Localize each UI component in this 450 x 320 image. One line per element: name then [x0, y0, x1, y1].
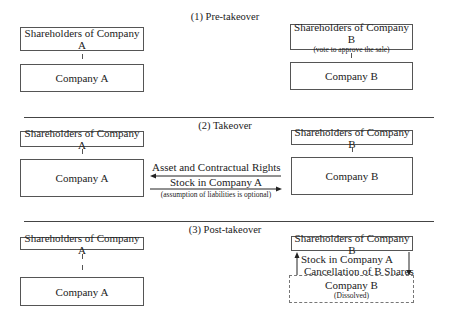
company-b-label: Company B [325, 279, 378, 291]
company-b-box-2: Company B [291, 157, 413, 195]
shareholders-a-box-3: Shareholders of Company A [20, 237, 144, 250]
company-a-label: Company A [56, 286, 109, 298]
section-divider-2 [24, 221, 434, 222]
liabilities-note: (assumption of liabilities is optional) [152, 190, 280, 199]
shareholders-b-label: Shareholders of Company B [292, 232, 412, 256]
shareholders-a-label: Shareholders of Company A [21, 127, 143, 151]
connector-b-1 [351, 53, 352, 58]
shareholders-a-box-2: Shareholders of Company A [20, 131, 144, 147]
company-b-box-1: Company B [290, 62, 413, 90]
connector-a-3a [82, 254, 83, 259]
shareholders-a-label: Shareholders of Company A [21, 232, 143, 256]
company-b-label: Company B [325, 70, 378, 82]
shareholders-b-box-3: Shareholders of Company B [291, 236, 413, 251]
shareholders-b-box-1: Shareholders of Company B (vote to appro… [290, 24, 413, 50]
asset-rights-label: Asset and Contractual Rights [152, 161, 280, 173]
company-a-label: Company A [56, 72, 109, 84]
company-a-box-1: Company A [20, 64, 144, 92]
connector-a-1 [82, 54, 83, 59]
company-a-box-2: Company A [20, 159, 144, 197]
company-a-box-3: Company A [20, 277, 144, 306]
shareholders-a-box-1: Shareholders of Company A [20, 27, 144, 51]
shareholders-a-label: Shareholders of Company A [21, 27, 143, 51]
arrow-up-icon [294, 252, 300, 276]
connector-b-2 [352, 147, 353, 152]
section-divider-1 [24, 117, 434, 118]
connector-a-3b [82, 265, 83, 270]
shareholders-b-label: Shareholders of Company B [292, 126, 412, 150]
company-b-label: Company B [326, 170, 379, 182]
arrow-down-icon [406, 252, 412, 276]
company-a-label: Company A [56, 172, 109, 184]
shareholders-b-box-2: Shareholders of Company B [291, 130, 413, 145]
dissolved-note: (Dissolved) [334, 291, 369, 300]
stock-in-a-label: Stock in Company A [301, 253, 393, 265]
company-b-dissolved-box: Company B (Dissolved) [289, 275, 414, 303]
shareholders-b-label: Shareholders of Company B [291, 21, 412, 45]
connector-a-2 [82, 149, 83, 154]
